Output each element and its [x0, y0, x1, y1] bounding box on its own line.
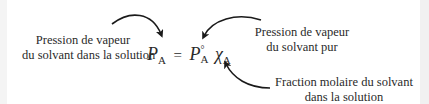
arrow-left-to-lhs: [112, 15, 161, 34]
arrow-bottom-to-mole-fraction: [226, 64, 270, 88]
arrows-layer: [0, 0, 429, 104]
arrow-right-to-standard-pressure: [204, 17, 261, 36]
